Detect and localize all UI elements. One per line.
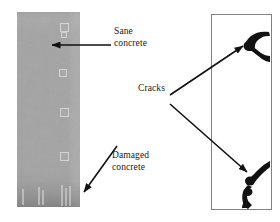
label-damaged-concrete-line2: concrete [112, 162, 149, 174]
label-cracks-line1: Cracks [138, 83, 165, 95]
damage-streak [42, 190, 44, 205]
label-sane-concrete-line2: concrete [114, 38, 147, 50]
gauge-mark [60, 152, 69, 161]
crack-marks-group [212, 15, 271, 209]
concrete-texture [17, 12, 80, 207]
gauge-mark [61, 32, 67, 38]
lower-crack [242, 161, 270, 209]
gauge-mark [60, 23, 69, 32]
gauge-mark [59, 69, 67, 77]
label-damaged-concrete: Damaged concrete [112, 150, 149, 173]
gauge-mark [60, 108, 69, 117]
label-sane-concrete-line1: Sane [114, 26, 147, 38]
damage-streak [69, 186, 71, 206]
damage-streak [65, 188, 67, 206]
label-damaged-concrete-line1: Damaged [112, 150, 149, 162]
damage-streak [22, 189, 24, 205]
label-sane-concrete: Sane concrete [114, 26, 147, 49]
label-cracks: Cracks [138, 83, 165, 95]
damage-streak [61, 185, 63, 206]
damaged-concrete-zone [17, 181, 80, 207]
crack-schematic-panel [211, 14, 272, 210]
figure-canvas: Sane concrete Cracks Damaged concrete [0, 0, 280, 222]
concrete-specimen-photo [17, 12, 80, 207]
upper-crack [244, 32, 271, 62]
damage-streak [38, 187, 40, 205]
